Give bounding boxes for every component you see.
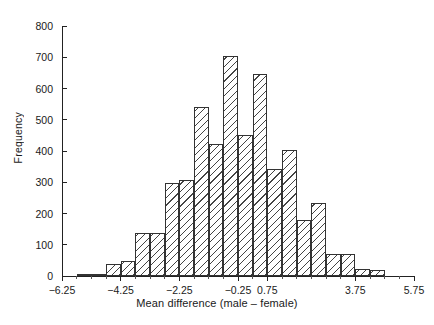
x-tick-label: −6.25	[49, 284, 76, 297]
y-tick-label: 200	[35, 207, 53, 221]
y-tick-label: 700	[35, 50, 53, 64]
x-minor-tick-mark	[326, 276, 327, 279]
histogram-bar	[77, 274, 92, 276]
histogram-bar	[91, 274, 106, 276]
y-tick-mark	[62, 88, 67, 89]
plot-area: 0100200300400500600700800 −6.25−4.25−2.2…	[62, 26, 414, 276]
histogram-bar	[355, 269, 370, 276]
y-tick-label: 0	[47, 269, 53, 283]
x-minor-tick-mark	[106, 276, 107, 279]
y-axis-title-text: Frequency	[12, 112, 24, 163]
histogram-bar	[135, 233, 150, 276]
y-tick-mark	[62, 182, 67, 183]
x-minor-tick-mark	[282, 276, 283, 279]
histogram-bar	[267, 169, 282, 276]
x-minor-tick-mark	[370, 276, 371, 279]
x-tick-mark	[238, 276, 239, 281]
histogram-bar	[341, 254, 356, 277]
x-tick-label: 0.75	[257, 284, 277, 297]
histogram-chart: Frequency 0100200300400500600700800 −6.2…	[0, 0, 434, 325]
y-tick-label: 300	[35, 175, 53, 189]
histogram-bar	[297, 220, 312, 276]
x-minor-tick-mark	[76, 276, 77, 279]
histogram-bar	[238, 135, 253, 276]
histogram-bar	[106, 264, 121, 276]
y-tick-label: 600	[35, 82, 53, 96]
x-minor-tick-mark	[164, 276, 165, 279]
x-tick-label: −0.25	[225, 284, 252, 297]
x-minor-tick-mark	[135, 276, 136, 279]
histogram-bar	[282, 150, 297, 276]
y-tick-mark	[62, 244, 67, 245]
y-tick-mark	[62, 119, 67, 120]
x-tick-label: 5.75	[404, 284, 424, 297]
x-tick-mark	[414, 276, 415, 281]
x-minor-tick-mark	[252, 276, 253, 279]
x-minor-tick-mark	[91, 276, 92, 279]
y-tick-label: 400	[35, 144, 53, 158]
x-minor-tick-mark	[384, 276, 385, 279]
x-tick-mark	[355, 276, 356, 281]
histogram-bar	[165, 183, 180, 276]
x-axis-title-text: Mean difference (male – female)	[136, 297, 297, 309]
y-tick-mark	[62, 213, 67, 214]
y-tick-mark	[62, 26, 67, 27]
y-tick-mark	[62, 57, 67, 58]
histogram-bar	[209, 144, 224, 276]
histogram-bar	[253, 74, 268, 277]
x-tick-label: 3.75	[345, 284, 365, 297]
histogram-bar	[370, 270, 385, 276]
x-tick-mark	[62, 276, 63, 281]
histogram-bar	[150, 233, 165, 276]
histogram-bar	[179, 180, 194, 276]
x-minor-tick-mark	[208, 276, 209, 279]
histogram-bar	[194, 107, 209, 276]
x-tick-mark	[267, 276, 268, 281]
x-tick-label: −4.25	[107, 284, 134, 297]
x-tick-label: −2.25	[166, 284, 193, 297]
x-minor-tick-mark	[399, 276, 400, 279]
x-minor-tick-mark	[194, 276, 195, 279]
histogram-bar	[223, 56, 238, 276]
histogram-bar	[121, 261, 136, 276]
x-minor-tick-mark	[296, 276, 297, 279]
x-minor-tick-mark	[311, 276, 312, 279]
histogram-bar	[311, 203, 326, 276]
x-minor-tick-mark	[340, 276, 341, 279]
y-tick-label: 500	[35, 113, 53, 127]
x-axis-title: Mean difference (male – female)	[0, 297, 434, 309]
x-minor-tick-mark	[223, 276, 224, 279]
y-tick-label: 100	[35, 238, 53, 252]
y-axis-title: Frequency	[8, 0, 28, 276]
y-tick-label: 800	[35, 19, 53, 33]
x-minor-tick-mark	[150, 276, 151, 279]
y-tick-mark	[62, 151, 67, 152]
histogram-bar	[326, 254, 341, 277]
x-tick-mark	[120, 276, 121, 281]
x-tick-mark	[179, 276, 180, 281]
y-tick-mark	[62, 276, 67, 277]
